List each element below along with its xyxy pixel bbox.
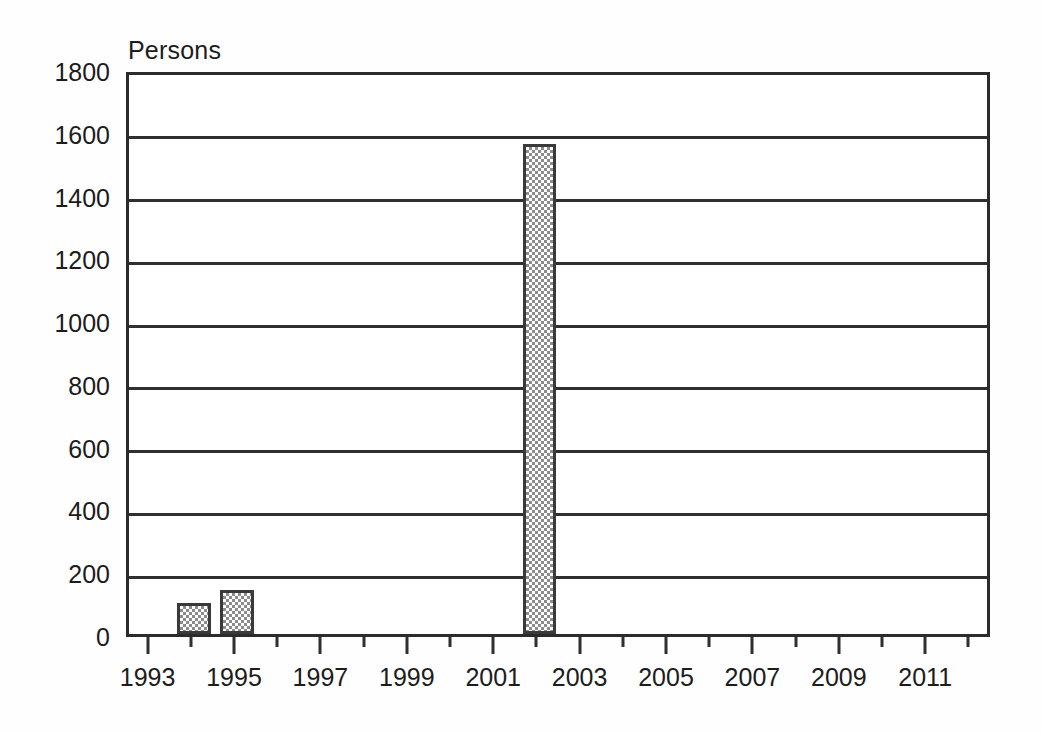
x-axis-tick-minor <box>276 637 279 647</box>
x-axis-tick-label: 2011 <box>898 663 952 692</box>
x-axis-tick <box>233 637 236 654</box>
x-axis-tick-minor <box>449 637 452 647</box>
x-axis-tick <box>924 637 927 654</box>
plot-area <box>126 72 990 637</box>
x-axis-ticks <box>126 637 990 657</box>
gridline <box>129 513 987 516</box>
x-axis-tick-minor <box>189 637 192 647</box>
gridline <box>129 450 987 453</box>
y-axis-tick-label: 600 <box>0 434 110 463</box>
x-axis-tick <box>405 637 408 654</box>
bar <box>523 144 557 634</box>
y-axis-tick-label: 800 <box>0 371 110 400</box>
x-axis-tick-minor <box>621 637 624 647</box>
x-axis-tick-minor <box>362 637 365 647</box>
bar <box>220 590 254 634</box>
y-axis-tick-label: 1600 <box>0 120 110 149</box>
gridline <box>129 262 987 265</box>
x-axis-tick-label: 2009 <box>811 663 867 692</box>
x-axis-tick-minor <box>967 637 970 647</box>
x-axis-tick <box>751 637 754 654</box>
x-axis-tick-minor <box>881 637 884 647</box>
x-axis-tick-label: 1997 <box>293 663 349 692</box>
y-axis-tick-label: 1200 <box>0 246 110 275</box>
x-axis-tick <box>578 637 581 654</box>
x-axis-tick-labels: 1993199519971999200120032005200720092011 <box>126 663 990 703</box>
y-axis-title: Persons <box>128 36 221 65</box>
x-axis-tick-label: 2007 <box>725 663 781 692</box>
x-axis-tick <box>492 637 495 654</box>
x-axis-tick <box>837 637 840 654</box>
y-axis-tick-label: 1800 <box>0 58 110 87</box>
x-axis-tick <box>665 637 668 654</box>
y-axis-tick-label: 1400 <box>0 183 110 212</box>
x-axis-tick-label: 1999 <box>379 663 435 692</box>
gridline <box>129 136 987 139</box>
x-axis-tick <box>146 637 149 654</box>
y-axis-tick-label: 0 <box>0 623 110 652</box>
x-axis-tick-label: 1993 <box>120 663 176 692</box>
y-axis-tick-label: 400 <box>0 497 110 526</box>
x-axis-tick-minor <box>708 637 711 647</box>
gridline <box>129 199 987 202</box>
bar-chart: Persons 02004006008001000120014001600180… <box>0 0 1042 734</box>
x-axis-tick-label: 2001 <box>465 663 521 692</box>
x-axis-tick-minor <box>794 637 797 647</box>
bar <box>177 603 211 634</box>
gridline <box>129 576 987 579</box>
y-axis-tick-label: 200 <box>0 560 110 589</box>
x-axis-tick-minor <box>535 637 538 647</box>
x-axis-tick-label: 2003 <box>552 663 608 692</box>
gridline <box>129 325 987 328</box>
x-axis-tick <box>319 637 322 654</box>
x-axis-tick-label: 2005 <box>638 663 694 692</box>
x-axis-tick-label: 1995 <box>206 663 262 692</box>
gridline <box>129 387 987 390</box>
y-axis-tick-label: 1000 <box>0 309 110 338</box>
